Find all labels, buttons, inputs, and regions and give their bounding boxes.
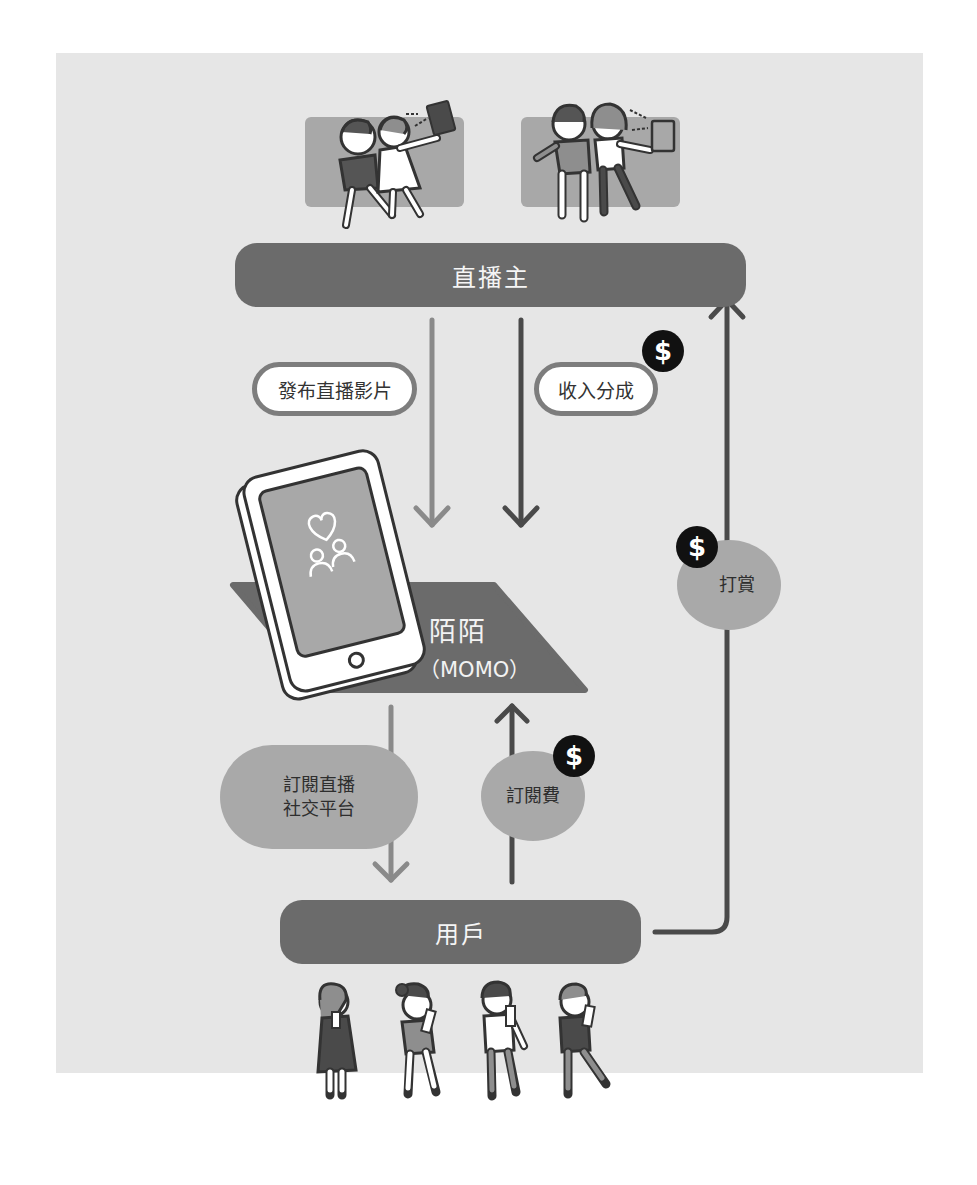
subscribe-service-line1: 訂閱直播 [283, 773, 355, 797]
revenue-share-label: 收入分成 [558, 376, 634, 403]
streamer-illustration-left [305, 101, 464, 225]
streamers-label: 直播主 [452, 258, 530, 293]
platform-name-en: （MOMO） [419, 653, 530, 683]
subscribe-service-line2: 社交平台 [283, 797, 355, 821]
flow-label-revenue-share: 收入分成 [534, 362, 658, 416]
platform-name-cn: 陌陌 [429, 610, 530, 649]
dollar-coin-icon: $ [553, 735, 595, 777]
flow-label-subscribe-service: 訂閱直播 社交平台 [220, 745, 418, 849]
platform-label: 陌陌 （MOMO） [429, 610, 530, 683]
tipping-label: 打賞 [719, 573, 755, 597]
streamer-illustration-right [521, 104, 680, 218]
users-illustration [318, 982, 606, 1096]
dollar-coin-icon: $ [642, 330, 684, 372]
subscription-fee-label: 訂閱費 [506, 784, 560, 808]
streamers-bar: 直播主 [235, 243, 746, 307]
dollar-coin-icon: $ [676, 526, 718, 568]
flow-label-publish: 發布直播影片 [252, 362, 417, 416]
arrow-publish [416, 320, 448, 525]
users-bar: 用戶 [280, 900, 641, 964]
phone-illustration [232, 447, 429, 702]
publish-label: 發布直播影片 [278, 376, 392, 403]
arrow-revenue-share [505, 320, 537, 525]
users-label: 用戶 [435, 915, 487, 950]
flow-arrows [0, 0, 977, 1185]
